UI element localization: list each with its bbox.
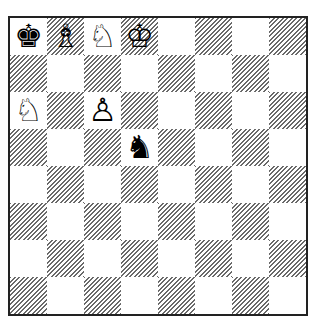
square-e8[interactable] [158, 18, 195, 55]
white-knight-icon[interactable]: ♘ [10, 92, 47, 129]
square-h5[interactable] [269, 129, 306, 166]
square-e3[interactable] [158, 203, 195, 240]
square-a4[interactable] [10, 166, 47, 203]
square-e4[interactable] [158, 166, 195, 203]
square-h4[interactable] [269, 166, 306, 203]
square-a5[interactable] [10, 129, 47, 166]
square-a6[interactable]: ♘ [10, 92, 47, 129]
square-b1[interactable] [47, 277, 84, 314]
square-g7[interactable] [232, 55, 269, 92]
square-a2[interactable] [10, 240, 47, 277]
square-f7[interactable] [195, 55, 232, 92]
square-a3[interactable] [10, 203, 47, 240]
square-b2[interactable] [47, 240, 84, 277]
square-h3[interactable] [269, 203, 306, 240]
black-knight-icon[interactable]: ♞ [121, 129, 158, 166]
square-f1[interactable] [195, 277, 232, 314]
square-f5[interactable] [195, 129, 232, 166]
square-f4[interactable] [195, 166, 232, 203]
square-d2[interactable] [121, 240, 158, 277]
square-b3[interactable] [47, 203, 84, 240]
square-c8[interactable]: ♘ [84, 18, 121, 55]
square-g8[interactable] [232, 18, 269, 55]
white-knight-icon[interactable]: ♘ [84, 18, 121, 55]
square-d4[interactable] [121, 166, 158, 203]
square-h6[interactable] [269, 92, 306, 129]
square-f3[interactable] [195, 203, 232, 240]
square-b6[interactable] [47, 92, 84, 129]
square-d8[interactable]: ♔ [121, 18, 158, 55]
square-d1[interactable] [121, 277, 158, 314]
square-f8[interactable] [195, 18, 232, 55]
square-d3[interactable] [121, 203, 158, 240]
square-d5[interactable]: ♞ [121, 129, 158, 166]
white-pawn-icon[interactable]: ♙ [84, 92, 121, 129]
square-c6[interactable]: ♙ [84, 92, 121, 129]
square-a1[interactable] [10, 277, 47, 314]
square-g3[interactable] [232, 203, 269, 240]
square-g4[interactable] [232, 166, 269, 203]
square-h1[interactable] [269, 277, 306, 314]
square-f2[interactable] [195, 240, 232, 277]
square-g5[interactable] [232, 129, 269, 166]
square-a7[interactable] [10, 55, 47, 92]
square-a8[interactable]: ♚ [10, 18, 47, 55]
square-h8[interactable] [269, 18, 306, 55]
square-c3[interactable] [84, 203, 121, 240]
square-e2[interactable] [158, 240, 195, 277]
square-h2[interactable] [269, 240, 306, 277]
square-h7[interactable] [269, 55, 306, 92]
square-b8[interactable]: ♗ [47, 18, 84, 55]
white-bishop-icon[interactable]: ♗ [47, 18, 84, 55]
square-d6[interactable] [121, 92, 158, 129]
chess-board: ♚♗♘♔♘♙♞ [8, 16, 308, 316]
square-b4[interactable] [47, 166, 84, 203]
square-d7[interactable] [121, 55, 158, 92]
square-c2[interactable] [84, 240, 121, 277]
white-king-icon[interactable]: ♔ [121, 18, 158, 55]
square-b7[interactable] [47, 55, 84, 92]
square-c5[interactable] [84, 129, 121, 166]
square-g2[interactable] [232, 240, 269, 277]
square-e5[interactable] [158, 129, 195, 166]
square-c4[interactable] [84, 166, 121, 203]
square-c7[interactable] [84, 55, 121, 92]
square-e6[interactable] [158, 92, 195, 129]
square-f6[interactable] [195, 92, 232, 129]
chess-diagram: ♚♗♘♔♘♙♞ [0, 0, 310, 319]
square-g1[interactable] [232, 277, 269, 314]
square-e1[interactable] [158, 277, 195, 314]
square-g6[interactable] [232, 92, 269, 129]
square-c1[interactable] [84, 277, 121, 314]
black-king-icon[interactable]: ♚ [10, 18, 47, 55]
square-b5[interactable] [47, 129, 84, 166]
square-e7[interactable] [158, 55, 195, 92]
